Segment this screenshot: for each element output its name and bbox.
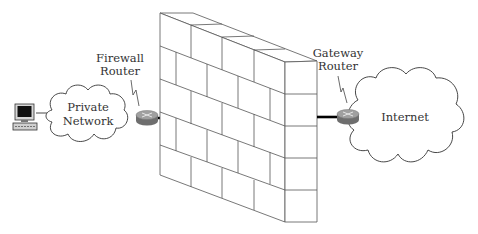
computer-workstation-icon (13, 104, 37, 130)
private-network-label-line1: Private (67, 100, 109, 114)
internet-label: Internet (381, 110, 429, 124)
firewall-router-label-line2: Router (100, 64, 140, 78)
firewall-wall (160, 13, 317, 222)
private-network-label-line2: Network (63, 114, 115, 128)
gateway-router-label-line2: Router (318, 59, 358, 73)
internet-cloud: Internet (348, 68, 464, 162)
gateway-router-signal-icon (338, 76, 347, 103)
firewall-router-icon (136, 111, 158, 126)
firewall-router-label-line1: Firewall (96, 51, 144, 65)
gateway-router-label-line1: Gateway (313, 46, 364, 60)
private-network-cloud: Private Network (46, 85, 128, 141)
gateway-router-icon (337, 110, 359, 125)
firewall-router-signal-icon (131, 80, 139, 106)
network-diagram: Private Network Firewall Router (0, 0, 478, 234)
